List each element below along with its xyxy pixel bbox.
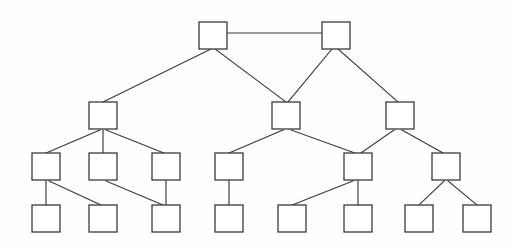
edge-n2-n5 [338, 49, 398, 102]
edge-n3-n6 [46, 130, 100, 153]
edge-n11-n19 [448, 181, 477, 205]
node-n5[interactable] [386, 102, 414, 129]
node-layer [32, 22, 491, 232]
node-n8[interactable] [152, 153, 180, 180]
edge-n1-n3 [103, 49, 211, 102]
edge-n5-n11 [402, 130, 443, 153]
graph-canvas [0, 0, 512, 248]
edge-n4-n9 [229, 130, 283, 153]
node-link-diagram [0, 0, 512, 248]
edge-n5-n10 [361, 130, 394, 153]
edge-n11-n18 [419, 181, 444, 205]
node-n16[interactable] [278, 205, 306, 232]
node-n7[interactable] [89, 153, 117, 180]
node-n10[interactable] [344, 153, 372, 180]
edge-n4-n10 [291, 130, 355, 153]
node-n3[interactable] [89, 102, 117, 129]
edge-n3-n8 [106, 130, 164, 153]
edge-n1-n4 [215, 49, 286, 102]
edge-n10-n16 [292, 181, 353, 205]
node-n18[interactable] [405, 205, 433, 232]
node-n15[interactable] [215, 205, 243, 232]
node-n6[interactable] [32, 153, 60, 180]
node-n12[interactable] [32, 205, 60, 232]
node-n4[interactable] [272, 102, 300, 129]
edge-n2-n4 [288, 49, 332, 102]
node-n11[interactable] [432, 153, 460, 180]
node-n9[interactable] [215, 153, 243, 180]
node-n14[interactable] [152, 205, 180, 232]
edge-n7-n14 [106, 181, 163, 205]
node-n1[interactable] [199, 22, 227, 49]
node-n2[interactable] [322, 22, 350, 49]
node-n19[interactable] [463, 205, 491, 232]
edge-n6-n13 [49, 181, 101, 205]
node-n17[interactable] [344, 205, 372, 232]
node-n13[interactable] [89, 205, 117, 232]
